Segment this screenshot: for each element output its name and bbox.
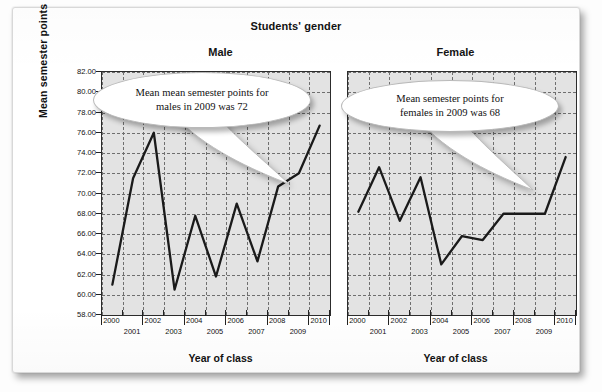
y-tick-label: 82.00 (77, 67, 96, 76)
x-tick-label: 2007 (248, 327, 264, 336)
y-tick-label: 74.00 (77, 148, 96, 157)
x-tick-label: 2008 (269, 316, 285, 325)
x-tick-label: 2001 (370, 327, 386, 336)
callout-male-line1: Mean mean semester points for (136, 87, 269, 98)
x-tick-label: 2004 (432, 316, 448, 325)
x-tick-label: 2001 (124, 327, 140, 336)
y-tick-label: 66.00 (77, 229, 96, 238)
x-tick-label: 2006 (473, 316, 489, 325)
x-tick-mark (205, 310, 206, 316)
x-tick-label: 2010 (310, 316, 326, 325)
x-tick-mark (288, 310, 289, 316)
x-tick-label: 2008 (515, 316, 531, 325)
x-axis-title-male: Year of class (113, 352, 328, 364)
x-tick-mark (430, 310, 431, 325)
x-axis-tick-labels-female: 2000200120022003200420052006200720082009… (347, 315, 575, 349)
x-tick-label: 2009 (536, 327, 552, 336)
y-tick-label: 72.00 (77, 168, 96, 177)
x-tick-mark (267, 310, 268, 325)
x-tick-mark (225, 310, 226, 325)
x-tick-label: 2005 (453, 327, 469, 336)
y-tick-label: 64.00 (77, 249, 96, 258)
y-axis-title: Mean semester points (37, 0, 49, 118)
gridline-vertical (576, 72, 577, 315)
x-tick-label: 2010 (556, 316, 572, 325)
x-tick-label: 2006 (227, 316, 243, 325)
callout-male-line2: males in 2009 was 72 (156, 101, 248, 112)
x-tick-mark (409, 310, 410, 316)
x-tick-label: 2004 (186, 316, 202, 325)
x-tick-mark (513, 310, 514, 325)
x-axis-tick-labels-male: 2000200120022003200420052006200720082009… (101, 315, 329, 349)
y-axis-tick-labels: 58.0060.0062.0064.0066.0068.0070.0072.00… (56, 64, 96, 316)
callout-male: Mean mean semester points for males in 2… (93, 72, 311, 128)
x-tick-mark (101, 310, 102, 325)
x-tick-mark (554, 310, 555, 325)
x-tick-mark (347, 310, 348, 325)
x-tick-mark (388, 310, 389, 325)
y-tick-label: 80.00 (77, 87, 96, 96)
x-tick-mark (246, 310, 247, 316)
x-axis-title-female: Year of class (348, 352, 563, 364)
x-tick-mark (575, 310, 576, 325)
panel-title-female: Female (348, 46, 563, 58)
x-tick-mark (534, 310, 535, 316)
x-tick-mark (492, 310, 493, 316)
y-tick-label: 68.00 (77, 208, 96, 217)
x-tick-label: 2000 (103, 316, 119, 325)
x-tick-mark (122, 310, 123, 316)
x-tick-label: 2007 (494, 327, 510, 336)
x-tick-mark (471, 310, 472, 325)
callout-female: Mean semester points for females in 2009… (341, 80, 559, 132)
x-tick-label: 2009 (290, 327, 306, 336)
x-tick-label: 2002 (391, 316, 407, 325)
x-tick-mark (451, 310, 452, 316)
x-tick-label: 2003 (165, 327, 181, 336)
x-tick-label: 2000 (349, 316, 365, 325)
x-tick-label: 2005 (207, 327, 223, 336)
callout-female-line1: Mean semester points for (396, 93, 503, 104)
y-tick-label: 76.00 (77, 127, 96, 136)
figure-page: Students' gender Male Female Mean semest… (0, 0, 602, 392)
callout-female-line2: females in 2009 was 68 (400, 107, 500, 118)
x-tick-mark (308, 310, 309, 325)
x-tick-label: 2003 (411, 327, 427, 336)
x-tick-mark (142, 310, 143, 325)
x-tick-mark (329, 310, 330, 325)
x-tick-mark (184, 310, 185, 325)
x-tick-mark (163, 310, 164, 316)
panel-title-male: Male (113, 46, 328, 58)
y-tick-label: 62.00 (77, 269, 96, 278)
y-tick-label: 60.00 (77, 289, 96, 298)
chart-title: Students' gender (13, 20, 579, 32)
gridline-vertical (330, 72, 331, 315)
x-tick-mark (368, 310, 369, 316)
y-tick-label: 58.00 (77, 310, 96, 319)
y-tick-label: 70.00 (77, 188, 96, 197)
x-tick-label: 2002 (145, 316, 161, 325)
y-tick-label: 78.00 (77, 107, 96, 116)
scanned-figure-panel: Students' gender Male Female Mean semest… (12, 7, 580, 373)
